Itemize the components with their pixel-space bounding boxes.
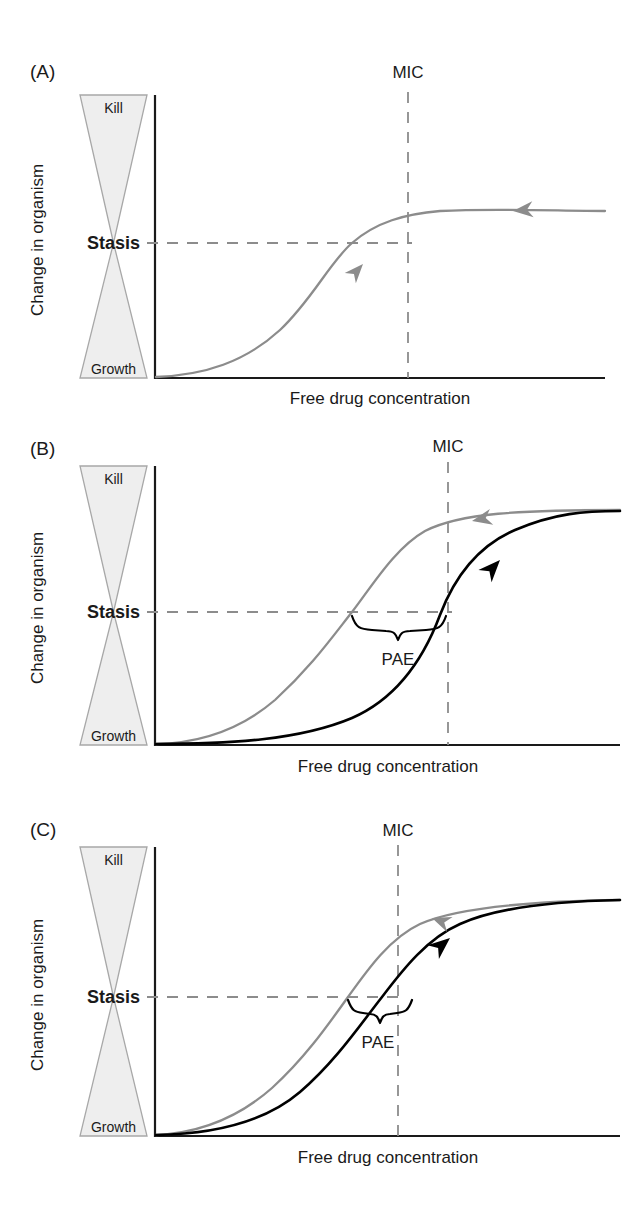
- panel-a: (A) Change in organism Kill Growth Stasi…: [28, 61, 605, 408]
- panel-b-axes: [155, 466, 620, 745]
- panel-b-y-axis-title: Change in organism: [28, 532, 47, 684]
- panel-c-pae-label: PAE: [362, 1033, 395, 1052]
- panel-c-growth-label: Growth: [91, 1119, 136, 1135]
- panel-b-kill-label: Kill: [104, 471, 123, 487]
- panel-b-pae-label: PAE: [382, 650, 415, 669]
- panel-c-mic-label: MIC: [382, 821, 413, 840]
- panel-c-x-axis-title: Free drug concentration: [298, 1148, 479, 1167]
- panel-b-label: (B): [30, 438, 55, 459]
- panel-c-pae-curve: [156, 900, 620, 1135]
- panel-b-x-axis-title: Free drug concentration: [298, 757, 479, 776]
- panel-a-x-axis-title: Free drug concentration: [290, 389, 471, 408]
- figure-canvas: (A) Change in organism Kill Growth Stasi…: [0, 0, 640, 1221]
- panel-a-gray-arrow-rising: [345, 259, 369, 283]
- panel-b-pae-curve: [156, 511, 620, 744]
- panel-a-effect-scale: Kill Growth Stasis: [80, 95, 147, 378]
- panel-c-stasis-label: Stasis: [87, 987, 140, 1007]
- panel-c-growth-triangle: [80, 997, 147, 1136]
- panel-a-drug-effect-curve: [156, 210, 605, 377]
- panel-c-label: (C): [30, 819, 56, 840]
- panel-a-axes: [155, 95, 605, 378]
- panel-b-no-pae-curve: [156, 510, 620, 744]
- panel-a-growth-triangle: [80, 243, 147, 378]
- panel-c-kill-triangle: [80, 847, 147, 997]
- panel-c-y-axis-title: Change in organism: [28, 919, 47, 1071]
- panel-a-stasis-label: Stasis: [87, 233, 140, 253]
- panel-a-label: (A): [30, 61, 55, 82]
- panel-c-pae-brace: [348, 1000, 412, 1023]
- panel-c-effect-scale: Kill Growth Stasis: [80, 847, 147, 1136]
- panel-a-y-axis-title: Change in organism: [28, 164, 47, 316]
- panel-a-mic-label: MIC: [392, 63, 423, 82]
- panel-b-gray-arrow: [470, 509, 493, 529]
- panel-b-stasis-label: Stasis: [87, 602, 140, 622]
- panel-a-growth-label: Growth: [91, 361, 136, 377]
- panel-b-mic-label: MIC: [432, 437, 463, 456]
- panel-c-kill-label: Kill: [104, 852, 123, 868]
- panel-c: (C) Change in organism Kill Growth Stasi…: [28, 819, 620, 1167]
- panel-b-black-arrow: [478, 554, 506, 582]
- panel-a-kill-label: Kill: [104, 100, 123, 116]
- panel-a-kill-triangle: [80, 95, 147, 243]
- panel-b-kill-triangle: [80, 466, 147, 612]
- panel-b-growth-label: Growth: [91, 728, 136, 744]
- panel-c-no-pae-curve: [156, 900, 620, 1135]
- panel-b: (B) Change in organism Kill Growth Stasi…: [28, 437, 620, 776]
- figure-root: (A) Change in organism Kill Growth Stasi…: [0, 0, 640, 1221]
- panel-b-effect-scale: Kill Growth Stasis: [80, 466, 147, 745]
- panel-b-growth-triangle: [80, 612, 147, 745]
